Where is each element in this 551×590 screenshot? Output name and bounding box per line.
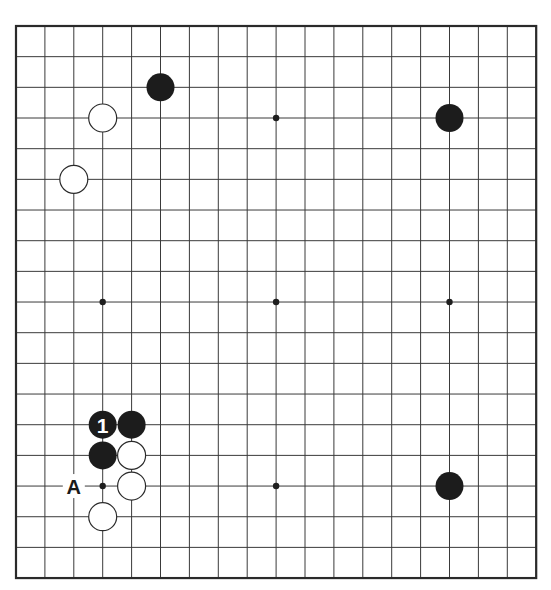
black-stone[interactable]: 1 [89,411,117,439]
white-stone-disc [89,104,117,132]
marker-label: A [67,476,81,498]
star-point [446,299,452,305]
star-point [273,299,279,305]
white-stone[interactable] [118,441,146,469]
star-point [273,483,279,489]
black-stone[interactable] [436,472,464,500]
star-point [273,115,279,121]
white-stone[interactable] [60,165,88,193]
black-stone-disc [147,73,175,101]
black-stone-disc [89,441,117,469]
move-number: 1 [97,414,109,437]
white-stone-disc [89,503,117,531]
black-stone-disc [118,411,146,439]
black-stone-disc [436,472,464,500]
star-point [100,299,106,305]
point-marker[interactable]: A [63,474,85,498]
white-stone[interactable] [118,472,146,500]
white-stone-disc [60,165,88,193]
black-stone[interactable] [118,411,146,439]
white-stone[interactable] [89,503,117,531]
black-stone[interactable] [147,73,175,101]
white-stone[interactable] [89,104,117,132]
black-stone[interactable] [436,104,464,132]
white-stone-disc [118,472,146,500]
white-stone-disc [118,441,146,469]
star-point [100,483,106,489]
black-stone[interactable] [89,441,117,469]
board-markers: A [63,474,85,498]
black-stone-disc [436,104,464,132]
go-board[interactable]: 1 A [0,0,551,590]
